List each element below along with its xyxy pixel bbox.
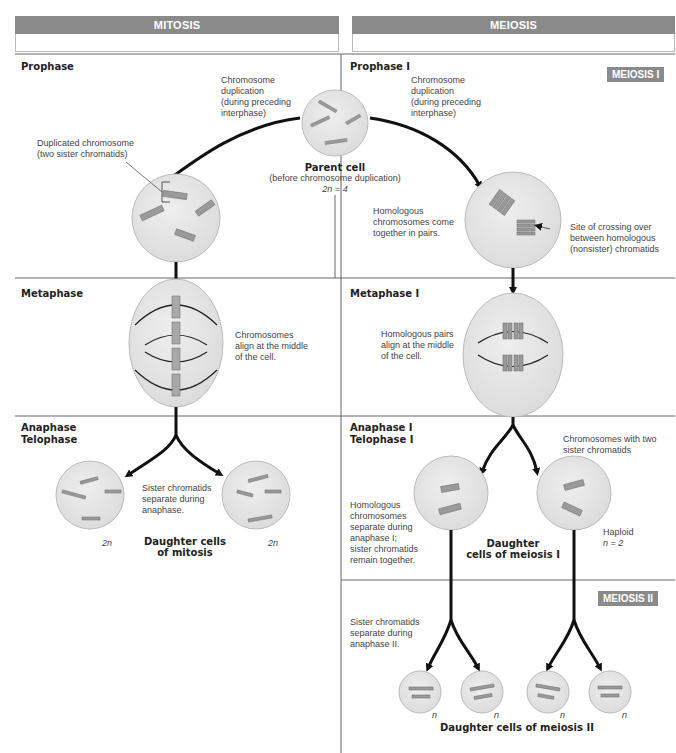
line: remain together. (350, 555, 418, 566)
line: anaphase. (142, 505, 212, 516)
sister-separate-ii-label: Sister chromatids separate during anapha… (350, 617, 420, 650)
line: interphase) (411, 108, 481, 119)
homologous-separate-label: Homologous chromosomes separate during a… (350, 500, 418, 566)
line: of mitosis (140, 547, 230, 558)
line: Sister chromatids (142, 483, 212, 494)
line: Homologous (350, 500, 418, 511)
meiosis-prophase-cell (465, 172, 561, 268)
ploidy-n-1: n (432, 710, 437, 721)
line: anaphase I; (350, 533, 418, 544)
ploidy-n-4: n (622, 710, 627, 721)
anaphase-i-text: Anaphase I (350, 422, 414, 434)
parent-cell (302, 90, 368, 156)
line: of the cell. (381, 351, 454, 362)
line: cells of meiosis I (463, 549, 563, 560)
meiosis2-tag: MEIOSIS II (598, 591, 658, 606)
line: of the cell. (235, 352, 308, 363)
mitosis-daughter-left (56, 461, 124, 529)
line: Chromosome (411, 75, 481, 86)
line: Sister chromatids (350, 617, 420, 628)
mitosis-ploidy-left: 2n (102, 538, 112, 549)
mitosis-daughter-right (222, 461, 290, 529)
ploidy-n-2: n (494, 710, 499, 721)
line: chromosomes (350, 511, 418, 522)
ploidy-n-3: n (560, 710, 565, 721)
telophase-text: Telophase (21, 434, 77, 446)
daughter-meiosis2-label: Daughter cells of meiosis II (440, 722, 594, 733)
chromosomes-two-sister-label: Chromosomes with two sister chromatids (563, 434, 657, 456)
daughter-mitosis-label: Daughter cells of mitosis (140, 536, 230, 558)
parent-cell-label: Parent cell (before chromosome duplicati… (255, 162, 415, 195)
line: Haploid (603, 527, 634, 538)
haploid-label: Haploid n = 2 (603, 527, 634, 549)
meiosis1-daughter-left (414, 456, 488, 530)
sister-separate-label: Sister chromatids separate during anapha… (142, 483, 212, 516)
meiosis1-daughter-right (537, 456, 611, 530)
mitosis-metaphase-label: Metaphase (21, 288, 83, 300)
meiosis-anaphase-label: Anaphase I Telophase I (350, 422, 414, 446)
diagram-canvas (0, 0, 676, 753)
line: chromosomes come (373, 217, 454, 228)
mitosis-prophase-cell (126, 162, 220, 262)
line: interphase) (221, 108, 291, 119)
homologous-come-label: Homologous chromosomes come together in … (373, 206, 454, 239)
line: Homologous pairs (381, 329, 454, 340)
dup-left-label: Chromosome duplication (during preceding… (221, 75, 291, 119)
meiosis-metaphase-label: Metaphase I (350, 288, 419, 300)
crossing-over-label: Site of crossing over between homologous… (570, 222, 659, 255)
mitosis-anaphase-label: Anaphase Telophase (21, 422, 77, 446)
meiosis1-tag: MEIOSIS I (607, 67, 664, 82)
line: Daughter cells (140, 536, 230, 547)
line: separate during (142, 494, 212, 505)
telophase-i-text: Telophase I (350, 434, 414, 446)
parent-cell-title: Parent cell (255, 162, 415, 173)
parent-cell-sub: (before chromosome duplication) (255, 173, 415, 184)
meiosis2-daughters (399, 671, 631, 713)
line: Duplicated chromosome (37, 138, 134, 149)
homologous-align-label: Homologous pairs align at the middle of … (381, 329, 454, 362)
line: separate during (350, 628, 420, 639)
line: (two sister chromatids) (37, 149, 134, 160)
mitosis-metaphase-cell (129, 279, 223, 407)
line: sister chromatids (563, 445, 657, 456)
line: Chromosomes with two (563, 434, 657, 445)
line: (during preceding (221, 97, 291, 108)
line: Chromosomes (235, 330, 308, 341)
duplicated-chromosome-label: Duplicated chromosome (two sister chroma… (37, 138, 134, 160)
line: Homologous (373, 206, 454, 217)
line: together in pairs. (373, 228, 454, 239)
mitosis-ploidy-right: 2n (268, 538, 278, 549)
meiosis-prophase-label: Prophase I (350, 61, 410, 73)
line: Chromosome (221, 75, 291, 86)
parent-cell-ploidy: 2n = 4 (255, 184, 415, 195)
chromosomes-align-label: Chromosomes align at the middle of the c… (235, 330, 308, 363)
line: align at the middle (381, 340, 454, 351)
daughter-meiosis1-label: Daughter cells of meiosis I (463, 538, 563, 560)
dup-right-label: Chromosome duplication (during preceding… (411, 75, 481, 119)
line: duplication (411, 86, 481, 97)
mitosis-prophase-label: Prophase (21, 61, 74, 73)
line: (nonsister) chromatids (570, 244, 659, 255)
line: separate during (350, 522, 418, 533)
line: duplication (221, 86, 291, 97)
anaphase-text: Anaphase (21, 422, 77, 434)
line: Daughter (463, 538, 563, 549)
line: (during preceding (411, 97, 481, 108)
line: align at the middle (235, 341, 308, 352)
line: between homologous (570, 233, 659, 244)
line: sister chromatids (350, 544, 418, 555)
meiosis-metaphase-cell (463, 293, 563, 417)
line: Site of crossing over (570, 222, 659, 233)
line: anaphase II. (350, 639, 420, 650)
line: n = 2 (603, 538, 634, 549)
